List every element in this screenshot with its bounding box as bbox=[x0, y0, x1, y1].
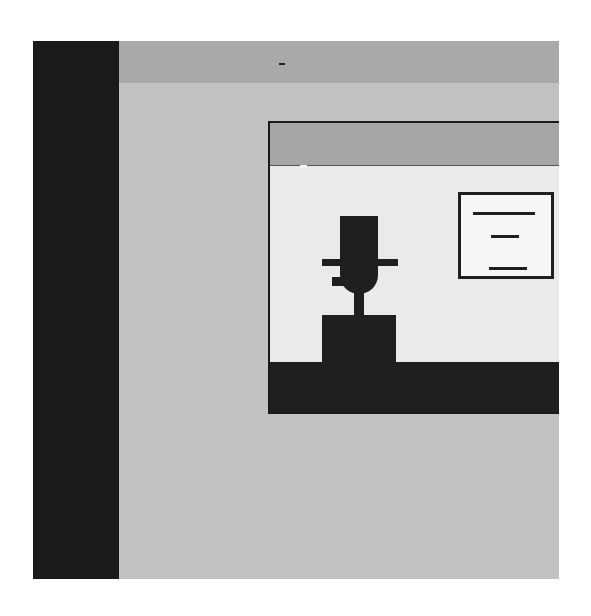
window-title-marker bbox=[300, 165, 307, 168]
sign-line-1 bbox=[473, 212, 535, 215]
sign-line-3 bbox=[489, 267, 527, 270]
top-bar bbox=[119, 41, 559, 83]
sidebar bbox=[33, 41, 119, 579]
sign-panel bbox=[458, 192, 554, 279]
illustration-window bbox=[268, 121, 559, 414]
figure-crossbar bbox=[322, 259, 398, 266]
ground-strip bbox=[270, 362, 559, 412]
pedestal bbox=[322, 315, 396, 367]
figure-neck bbox=[354, 291, 364, 317]
topbar-marker bbox=[279, 63, 285, 65]
window-title-bar bbox=[270, 123, 559, 166]
figure-notch bbox=[332, 277, 348, 286]
sign-line-2 bbox=[491, 235, 519, 238]
app-frame bbox=[33, 41, 559, 579]
